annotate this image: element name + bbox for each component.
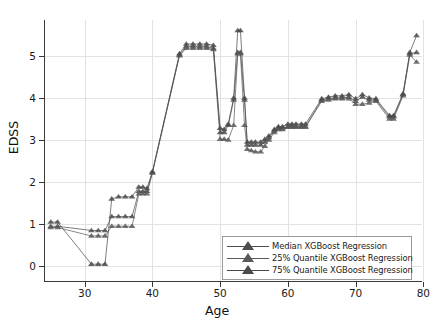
data-point-marker: [95, 228, 102, 233]
data-point-marker: [108, 214, 115, 219]
y-tick-label: 3: [14, 135, 36, 145]
data-point-marker: [366, 95, 373, 100]
legend-label-q25: 25% Quantile XGBoost Regression: [269, 253, 413, 263]
data-point-marker: [257, 149, 264, 154]
data-point-marker: [122, 214, 129, 219]
data-point-marker: [190, 41, 197, 46]
data-point-marker: [203, 41, 210, 46]
x-tick-label: 80: [408, 288, 434, 298]
x-tick-label: 70: [341, 288, 371, 298]
y-tick-label: 4: [14, 93, 36, 103]
data-point-marker: [241, 122, 248, 127]
legend-item-q75: 75% Quantile XGBoost Regression: [227, 264, 406, 276]
y-tick-label: 2: [14, 177, 36, 187]
data-point-marker: [115, 223, 122, 228]
data-point-marker: [230, 95, 237, 100]
y-tick: [39, 140, 44, 141]
data-point-marker: [122, 194, 129, 199]
data-point-marker: [115, 194, 122, 199]
data-point-marker: [413, 33, 420, 38]
x-tick-label: 50: [205, 288, 235, 298]
data-point-marker: [102, 261, 109, 266]
y-tick: [39, 56, 44, 57]
data-point-marker: [196, 41, 203, 46]
data-point-marker: [88, 261, 95, 266]
legend-symbol-q75: [227, 264, 269, 276]
data-point-marker: [102, 228, 109, 233]
y-tick: [39, 266, 44, 267]
y-tick: [39, 98, 44, 99]
data-point-marker: [230, 122, 237, 127]
data-point-marker: [129, 223, 136, 228]
data-point-marker: [332, 93, 339, 98]
y-tick: [39, 182, 44, 183]
series-line: [51, 48, 417, 236]
chart-figure: EDSS Age Median XGBoost Regression 25% Q…: [0, 0, 434, 324]
legend-symbol-q25: [227, 252, 269, 264]
series-line: [51, 47, 417, 231]
data-point-marker: [400, 91, 407, 96]
series-q25: [47, 45, 420, 237]
data-point-marker: [359, 92, 366, 97]
data-point-marker: [149, 169, 156, 174]
data-point-marker: [122, 223, 129, 228]
legend-item-median: Median XGBoost Regression: [227, 240, 406, 252]
x-tick-label: 40: [137, 288, 167, 298]
data-point-marker: [241, 95, 248, 100]
data-point-marker: [406, 50, 413, 55]
y-tick-label: 0: [14, 261, 36, 271]
legend-label-q75: 75% Quantile XGBoost Regression: [269, 265, 413, 275]
data-point-marker: [95, 233, 102, 238]
series-median: [47, 44, 420, 233]
y-tick: [39, 224, 44, 225]
data-point-marker: [352, 96, 359, 101]
data-point-marker: [345, 92, 352, 97]
data-point-marker: [47, 219, 54, 224]
data-point-marker: [95, 261, 102, 266]
data-point-marker: [115, 214, 122, 219]
y-tick-label: 5: [14, 51, 36, 61]
x-tick-label: 60: [273, 288, 303, 298]
legend-item-q25: 25% Quantile XGBoost Regression: [227, 252, 406, 264]
data-point-marker: [54, 219, 61, 224]
data-point-marker: [225, 121, 232, 126]
x-axis-title: Age: [0, 303, 434, 318]
legend-symbol-median: [227, 240, 269, 252]
y-tick-label: 1: [14, 219, 36, 229]
x-tick-label: 30: [70, 288, 100, 298]
legend-label-median: Median XGBoost Regression: [269, 241, 387, 251]
data-point-marker: [102, 233, 109, 238]
data-point-marker: [413, 50, 420, 55]
chart-legend: Median XGBoost Regression 25% Quantile X…: [222, 236, 412, 280]
data-point-marker: [129, 194, 136, 199]
data-point-marker: [183, 41, 190, 46]
